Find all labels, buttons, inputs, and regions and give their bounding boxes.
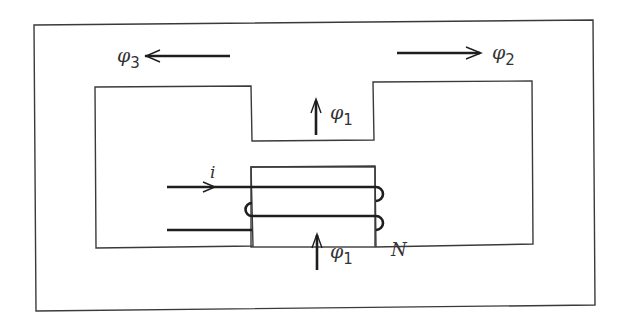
center-leg <box>251 167 375 247</box>
phi3-label: φ3 <box>117 44 140 72</box>
phi1-bottom-label: φ1 <box>330 240 353 268</box>
phi1-bottom-arrow <box>312 234 322 270</box>
phi1-top-arrow <box>311 99 321 135</box>
phi2-label: φ2 <box>492 41 515 69</box>
magnetic-circuit-diagram: φ3 φ2 φ1 φ1 i N <box>0 0 623 334</box>
phi3-arrow <box>145 50 230 62</box>
current-label: i <box>210 162 215 182</box>
coil-winding <box>167 182 383 230</box>
phi1-top-label: φ1 <box>330 101 353 129</box>
turns-label: N <box>390 239 408 260</box>
phi2-arrow <box>397 47 481 59</box>
